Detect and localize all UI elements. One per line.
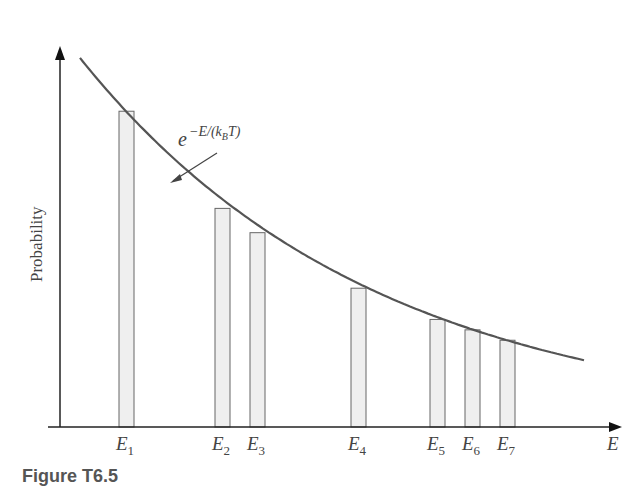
bar-E6 (465, 330, 480, 427)
bar-E7 (500, 340, 515, 427)
bar-E1 (119, 111, 134, 427)
arrowhead-icon (170, 174, 182, 183)
bar-E4 (351, 288, 366, 427)
tick-label-E3: E3 (246, 433, 265, 458)
y-axis-label: Probability (27, 206, 46, 282)
figure-caption: Figure T6.5 (22, 466, 118, 487)
bar-E5 (430, 319, 445, 427)
annotation-exponent: −E/(kBT) (189, 124, 241, 142)
tick-label-E6: E6 (461, 433, 481, 458)
bar-E2 (215, 208, 230, 427)
curve-annotation: e −E/(kBT) (170, 124, 241, 183)
bars (119, 111, 515, 427)
tick-label-E2: E2 (211, 433, 230, 458)
annotation-base: e (178, 128, 187, 150)
tick-label-E5: E5 (426, 433, 445, 458)
tick-label-E7: E7 (496, 433, 516, 458)
y-axis-arrow-icon (55, 46, 65, 60)
bar-E3 (250, 233, 265, 427)
x-axis-arrow-icon (609, 422, 622, 432)
x-axis-label: E (606, 433, 619, 454)
tick-label-E4: E4 (347, 433, 367, 458)
boltzmann-curve (80, 58, 584, 360)
tick-labels: E1E2E3E4E5E6E7 (115, 433, 516, 458)
tick-label-E1: E1 (115, 433, 134, 458)
